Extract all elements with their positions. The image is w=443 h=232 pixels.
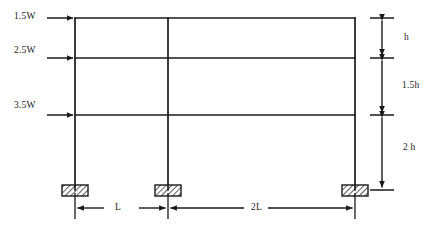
load-label-top: 1.5W — [14, 12, 36, 22]
dimension-label-L: L — [115, 203, 121, 213]
load-label-lower: 3.5W — [14, 101, 36, 111]
dimension-label-1-5h: 1.5h — [402, 81, 419, 91]
load-label-middle: 2.5W — [14, 46, 36, 56]
frame-diagram-canvas: 1.5W 2.5W 3.5W h 1.5h 2 h L 2L — [0, 0, 443, 232]
vertical-dimension-chain — [370, 18, 394, 190]
dimension-label-h: h — [404, 33, 409, 43]
frame-diagram-svg — [0, 0, 443, 232]
dimension-label-2L: 2L — [251, 203, 262, 213]
frame-beams — [75, 18, 355, 115]
frame-supports — [62, 185, 368, 196]
lateral-load-arrows — [47, 18, 73, 115]
frame-columns — [75, 18, 355, 190]
dimension-label-2h: 2 h — [403, 143, 415, 153]
